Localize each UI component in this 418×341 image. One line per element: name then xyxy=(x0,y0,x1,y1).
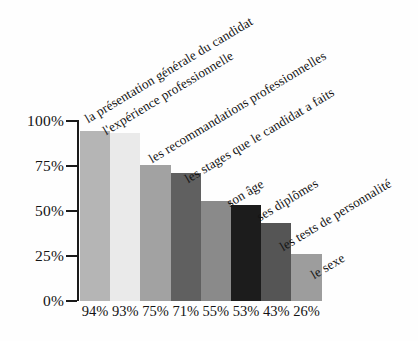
bar-value-label: 26% xyxy=(287,303,327,320)
bar xyxy=(80,131,110,301)
y-axis-label-100: 100% xyxy=(2,112,64,130)
bar xyxy=(201,201,231,301)
bar xyxy=(231,205,261,301)
y-axis-label-75: 75% xyxy=(2,157,64,175)
y-axis-tick-50 xyxy=(66,210,77,212)
y-axis-label-25: 25% xyxy=(2,247,64,265)
bar xyxy=(110,133,140,301)
y-axis-tick-25 xyxy=(66,255,77,257)
y-axis-label-50: 50% xyxy=(2,202,64,220)
y-axis-tick-0 xyxy=(66,300,77,302)
bar-chart: 100% 75% 50% 25% 0% 94%93%75%71%55%53%43… xyxy=(0,0,418,341)
y-axis-tick-100 xyxy=(66,120,77,122)
y-axis-line xyxy=(77,120,79,301)
bar xyxy=(140,165,170,301)
bar xyxy=(171,173,201,302)
y-axis-tick-75 xyxy=(66,165,77,167)
y-axis-label-0: 0% xyxy=(2,292,64,310)
